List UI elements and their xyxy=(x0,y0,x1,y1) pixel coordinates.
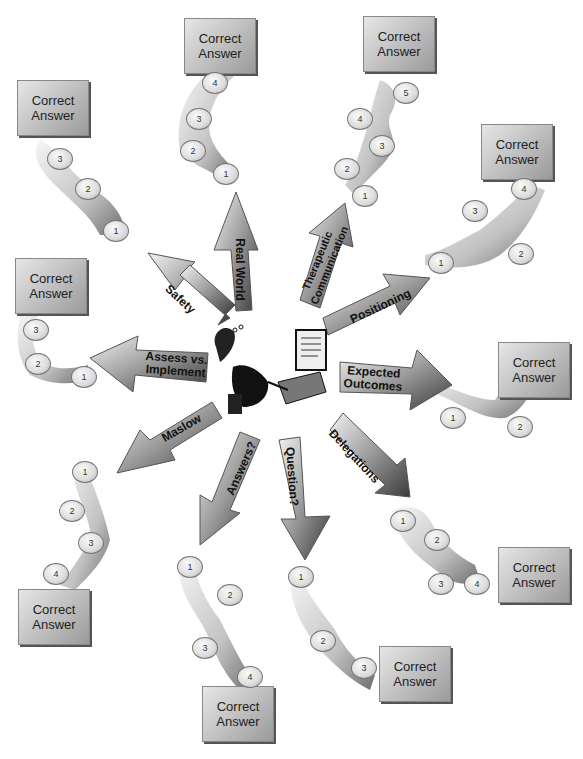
answer-box-real-world: CorrectAnswer xyxy=(184,18,256,74)
answer-box-answers: CorrectAnswer xyxy=(202,686,274,742)
step-therapeutic-4: 4 xyxy=(347,108,373,130)
answer-line2: Answer xyxy=(32,617,75,632)
answer-line1: Correct xyxy=(513,560,556,575)
answer-box-maslow: CorrectAnswer xyxy=(18,589,90,645)
step-therapeutic-3: 3 xyxy=(369,135,395,157)
answer-box-assess: CorrectAnswer xyxy=(15,258,87,314)
step-delegations-3: 3 xyxy=(428,573,454,595)
answer-line2: Answer xyxy=(512,370,555,385)
answer-line1: Correct xyxy=(32,93,75,108)
answer-box-therapeutic: CorrectAnswer xyxy=(363,16,435,72)
step-maslow-1: 1 xyxy=(72,461,98,483)
step-maslow-2: 2 xyxy=(59,500,85,522)
answer-box-expected-outcomes: CorrectAnswer xyxy=(498,342,570,398)
step-expected-2: 2 xyxy=(507,416,533,438)
answer-line2: Answer xyxy=(31,108,74,123)
step-safety-3: 3 xyxy=(47,148,73,170)
answer-line1: Correct xyxy=(378,29,421,44)
step-answers-1: 1 xyxy=(177,556,203,578)
step-maslow-4: 4 xyxy=(43,563,69,585)
step-therapeutic-1: 1 xyxy=(352,185,378,207)
answer-line2: Answer xyxy=(198,46,241,61)
answer-box-question: CorrectAnswer xyxy=(379,646,451,702)
answer-box-safety: CorrectAnswer xyxy=(17,80,89,136)
step-assess-1: 1 xyxy=(71,366,97,388)
label-question: Question? xyxy=(283,446,300,506)
answer-line2: Answer xyxy=(512,575,555,590)
label-real-world: Real World xyxy=(233,238,246,300)
answer-line2: Answer xyxy=(393,674,436,689)
answer-box-positioning: CorrectAnswer xyxy=(481,124,553,180)
answer-box-delegations: CorrectAnswer xyxy=(498,547,570,603)
step-question-3: 3 xyxy=(351,657,377,679)
answer-line2: Answer xyxy=(216,714,259,729)
test-taker-illustration xyxy=(208,322,333,417)
step-real-world-4: 4 xyxy=(202,72,228,94)
step-positioning-4: 4 xyxy=(511,178,537,200)
answer-line1: Correct xyxy=(199,31,242,46)
strategy-diagram: Safety Real World Therapeutic Communicat… xyxy=(0,0,583,759)
step-assess-3: 3 xyxy=(23,319,49,341)
step-maslow-3: 3 xyxy=(78,532,104,554)
step-therapeutic-2: 2 xyxy=(334,158,360,180)
step-delegations-1: 1 xyxy=(390,510,416,532)
arrow-delegations xyxy=(330,413,410,497)
answer-line1: Correct xyxy=(394,659,437,674)
step-expected-1: 1 xyxy=(440,407,466,429)
label-expected-outcomes: Expected Outcomes xyxy=(343,364,403,394)
answer-line2: Answer xyxy=(377,44,420,59)
step-real-world-3: 3 xyxy=(186,108,212,130)
step-safety-1: 1 xyxy=(103,220,129,242)
answer-line1: Correct xyxy=(513,355,556,370)
label-assess: Assess vs. Implement xyxy=(144,350,208,380)
step-answers-2: 2 xyxy=(217,584,243,606)
step-answers-3: 3 xyxy=(192,637,218,659)
step-delegations-2: 2 xyxy=(424,529,450,551)
answer-line1: Correct xyxy=(217,699,260,714)
step-real-world-2: 2 xyxy=(180,140,206,162)
answer-line2: Answer xyxy=(29,286,72,301)
step-assess-2: 2 xyxy=(25,353,51,375)
answer-line1: Correct xyxy=(496,137,539,152)
answer-line1: Correct xyxy=(33,602,76,617)
step-positioning-3: 3 xyxy=(462,200,488,222)
answer-line1: Correct xyxy=(30,271,73,286)
step-answers-4: 4 xyxy=(237,666,263,688)
answer-line2: Answer xyxy=(495,152,538,167)
step-therapeutic-5: 5 xyxy=(393,82,419,104)
step-question-1: 1 xyxy=(288,566,314,588)
step-safety-2: 2 xyxy=(75,178,101,200)
step-real-world-1: 1 xyxy=(213,163,239,185)
step-question-2: 2 xyxy=(310,630,336,652)
step-positioning-2: 2 xyxy=(508,243,534,265)
step-positioning-1: 1 xyxy=(428,252,454,274)
step-delegations-4: 4 xyxy=(464,573,490,595)
